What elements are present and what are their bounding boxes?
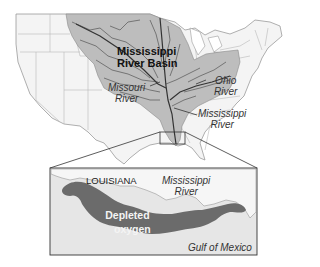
missouri-label-line1: Missouri	[108, 82, 145, 93]
inset-river-line1: Mississippi	[162, 175, 210, 186]
ohio-river-label: Ohio River	[214, 75, 237, 97]
mississippi-river-label: Mississippi River	[198, 108, 246, 130]
ohio-label-line2: River	[214, 86, 237, 97]
mississippi-label-line2: River	[198, 119, 246, 130]
basin-label-line2: River Basin	[117, 57, 178, 69]
gulf-of-mexico-label: Gulf of Mexico	[188, 242, 252, 253]
inset-river-line2: River	[162, 186, 210, 197]
ohio-label-line1: Ohio	[214, 75, 237, 86]
basin-label: Mississippi River Basin	[117, 45, 178, 69]
basin-label-line1: Mississippi	[117, 45, 178, 57]
missouri-river-label: Missouri River	[108, 82, 145, 104]
mississippi-label-line1: Mississippi	[198, 108, 246, 119]
missouri-label-line2: River	[108, 93, 145, 104]
inset-river-label: Mississippi River	[162, 175, 210, 197]
zone-label-line2: oxygen	[104, 222, 151, 236]
zone-label-line1: Depleted	[104, 208, 151, 222]
louisiana-label: LOUISIANA	[86, 176, 137, 186]
depleted-oxygen-label: Depleted oxygen	[104, 208, 151, 236]
